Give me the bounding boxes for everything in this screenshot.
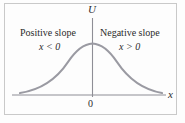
positive-slope-label: Positive slope [20,28,76,38]
negative-slope-label: Negative slope [100,28,160,38]
x-axis-label: x [168,89,173,100]
x-negative-condition-label: x < 0 [39,42,60,52]
u-axis-label: U [88,4,96,15]
origin-label: 0 [88,99,93,109]
x-positive-condition-label: x > 0 [119,42,140,52]
potential-energy-figure: Positive slope x < 0 Negative slope x > … [0,0,185,123]
